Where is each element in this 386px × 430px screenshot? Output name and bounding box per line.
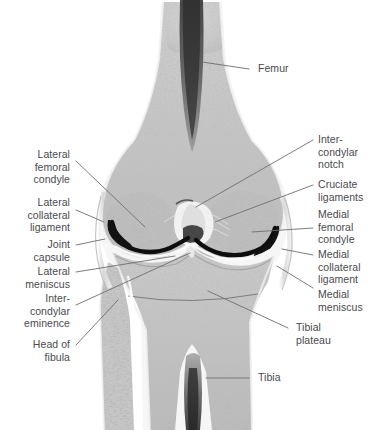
label-tibia: Tibia [258, 371, 281, 384]
label-medial-meniscus: Medial meniscus [318, 288, 363, 313]
label-femur: Femur [258, 62, 289, 75]
label-tibial-plateau: Tibial plateau [296, 321, 331, 346]
label-intercondylar-eminence: Inter- condylar eminence [4, 292, 70, 330]
label-cruciate-ligaments: Cruciate ligaments [318, 178, 363, 203]
knee-joint-figure: Femur Inter- condylar notch Cruciate lig… [0, 0, 386, 430]
label-medial-collateral-ligament: Medial collateral ligament [318, 248, 361, 286]
label-lateral-femoral-condyle: Lateral femoral condyle [6, 148, 70, 186]
label-head-of-fibula: Head of fibula [6, 338, 70, 363]
label-lateral-meniscus: Lateral meniscus [6, 265, 70, 290]
label-lateral-collateral-ligament: Lateral collateral ligament [4, 196, 70, 234]
label-joint-capsule: Joint capsule [6, 238, 70, 263]
label-medial-femoral-condyle: Medial femoral condyle [318, 208, 355, 246]
label-intercondylar-notch: Inter- condylar notch [318, 133, 358, 171]
